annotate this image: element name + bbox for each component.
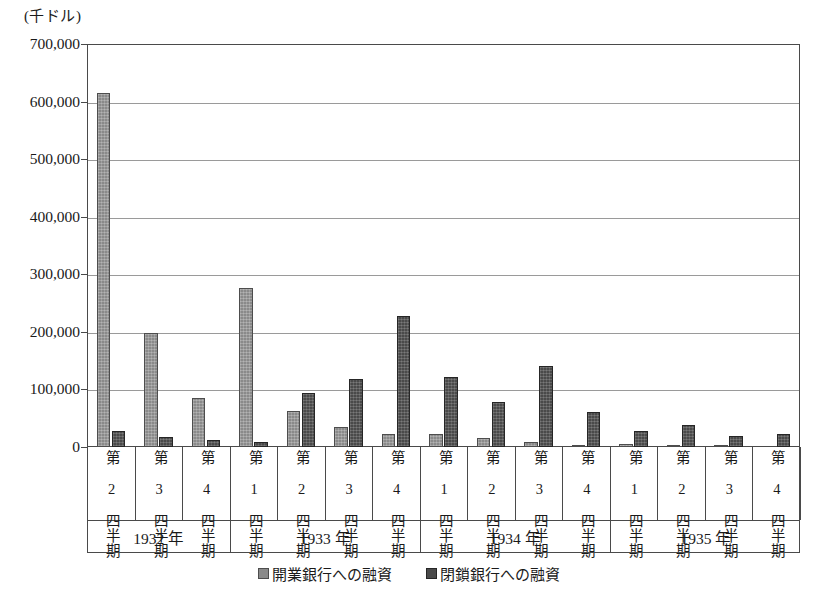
quarter-label-cell: 第 4 四半期	[753, 447, 801, 520]
y-axis-tick-mark	[81, 274, 87, 275]
y-axis-tick-mark	[81, 102, 87, 103]
quarter-label-cell: 第 2 四半期	[468, 447, 516, 520]
quarter-label-cell: 第 3 四半期	[136, 447, 184, 520]
bar-open-bank	[287, 411, 301, 447]
year-label-cell: 1934 年	[421, 521, 611, 552]
y-axis-tick-mark	[81, 389, 87, 390]
bar-closed-bank	[539, 366, 553, 447]
legend-swatch-closed-bank-icon	[426, 568, 437, 579]
y-axis-tick-label: 100,000	[30, 380, 80, 398]
y-axis-tick-mark	[81, 447, 87, 448]
bar-closed-bank	[634, 431, 648, 447]
y-axis-tick-mark	[81, 159, 87, 160]
quarter-label-cell: 第 4 四半期	[183, 447, 231, 520]
quarter-label-cell: 第 3 四半期	[516, 447, 564, 520]
bar-closed-bank	[682, 425, 696, 447]
quarter-label-cell: 第 1 四半期	[611, 447, 659, 520]
bar-open-bank	[144, 333, 158, 447]
y-axis-tick-labels: 700,000600,000500,000400,000300,000200,0…	[0, 44, 80, 447]
legend-swatch-open-bank-icon	[258, 568, 269, 579]
bars-layer	[87, 44, 800, 447]
y-axis-tick-label: 0	[72, 438, 80, 456]
y-axis-tick-label: 600,000	[30, 93, 80, 111]
y-axis-tick-label: 200,000	[30, 323, 80, 341]
quarter-label-cell: 第 1 四半期	[231, 447, 279, 520]
quarter-label-cell: 第 2 四半期	[658, 447, 706, 520]
legend-item-closed-bank: 閉鎖銀行への融資	[426, 563, 560, 584]
y-axis-tick-mark	[81, 44, 87, 45]
y-axis-tick-label: 500,000	[30, 150, 80, 168]
year-label: 1935 年	[680, 526, 731, 548]
year-label: 1933 年	[300, 526, 351, 548]
bar-closed-bank	[729, 436, 743, 447]
bar-closed-bank	[397, 316, 411, 447]
bar-closed-bank	[777, 434, 791, 447]
year-label-cell: 1933 年	[231, 521, 421, 552]
year-label-cell: 1932 年	[88, 521, 231, 552]
y-axis-tick-label: 300,000	[30, 265, 80, 283]
quarter-label-cell: 第 4 四半期	[563, 447, 611, 520]
y-axis-tick-mark	[81, 332, 87, 333]
year-label-cell: 1935 年	[611, 521, 801, 552]
legend-label-closed-bank: 閉鎖銀行への融資	[440, 563, 560, 584]
quarter-label-cell: 第 3 四半期	[706, 447, 754, 520]
bar-closed-bank	[349, 379, 363, 448]
y-axis-tick-label: 700,000	[30, 35, 80, 53]
bar-open-bank	[239, 288, 253, 447]
legend-label-open-bank: 開業銀行への融資	[272, 563, 392, 584]
bar-closed-bank	[302, 393, 316, 447]
bar-closed-bank	[444, 377, 458, 447]
bar-closed-bank	[112, 431, 126, 447]
quarter-label-cell: 第 1 四半期	[421, 447, 469, 520]
quarter-label-cell: 第 2 四半期	[278, 447, 326, 520]
bar-open-bank	[429, 434, 443, 447]
bar-chart: (千ドル) 700,000600,000500,000400,000300,00…	[0, 0, 817, 612]
bar-open-bank	[192, 398, 206, 447]
quarter-label-band: 第 2 四半期第 3 四半期第 4 四半期第 1 四半期第 2 四半期第 3 四…	[87, 447, 800, 521]
bar-closed-bank	[587, 412, 601, 447]
quarter-label-cell: 第 2 四半期	[88, 447, 136, 520]
year-label: 1934 年	[490, 526, 541, 548]
year-label-band: 1932 年1933 年1934 年1935 年	[87, 521, 800, 553]
bar-closed-bank	[492, 402, 506, 447]
y-axis-tick-label: 400,000	[30, 208, 80, 226]
bar-open-bank	[382, 434, 396, 447]
bar-open-bank	[477, 438, 491, 447]
chart-legend: 開業銀行への融資 閉鎖銀行への融資	[0, 563, 817, 584]
year-label: 1932 年	[133, 526, 184, 548]
bar-closed-bank	[207, 440, 221, 447]
bar-closed-bank	[159, 437, 173, 447]
y-axis-tick-mark	[81, 217, 87, 218]
bar-open-bank	[334, 427, 348, 447]
quarter-label-cell: 第 4 四半期	[373, 447, 421, 520]
legend-item-open-bank: 開業銀行への融資	[258, 563, 392, 584]
bar-open-bank	[97, 93, 111, 447]
quarter-label-cell: 第 3 四半期	[326, 447, 374, 520]
y-axis-unit-label: (千ドル)	[24, 4, 82, 25]
